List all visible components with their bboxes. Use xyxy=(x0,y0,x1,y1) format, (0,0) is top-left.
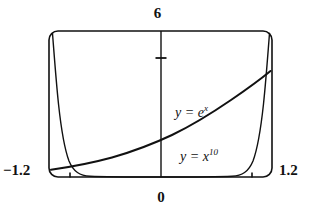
function-graph-figure: 6 −1.2 1.2 0 y = ex y = x10 xyxy=(0,0,315,215)
graph-canvas xyxy=(0,0,315,215)
curve-label-exp-exponent: x xyxy=(204,103,208,113)
curve-label-pow-exponent: 10 xyxy=(209,147,218,157)
y-axis-max-label: 6 xyxy=(0,6,315,21)
curve-label-x-to-the-tenth: y = x10 xyxy=(180,150,218,164)
x-axis-min-label: −1.2 xyxy=(3,163,30,178)
curve-label-pow-base: y = x xyxy=(180,149,209,164)
x-axis-max-label: 1.2 xyxy=(279,163,298,178)
curve-label-e-to-the-x: y = ex xyxy=(175,106,208,120)
curve-label-exp-base: y = e xyxy=(175,105,204,120)
origin-label: 0 xyxy=(0,190,315,205)
